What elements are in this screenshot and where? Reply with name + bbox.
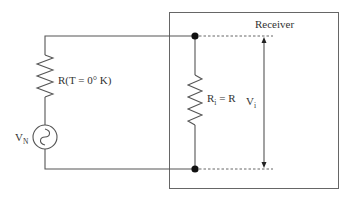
circuit-diagram: Receiver R(T = 0° K) VN Ri = R Vi — [0, 0, 352, 199]
arrow-up-icon — [262, 37, 267, 43]
noise-source-label: VN — [15, 131, 29, 146]
source-resistor-label: R(T = 0° K) — [58, 74, 112, 87]
bottom-wire — [45, 149, 195, 169]
input-voltage-label: Vi — [246, 95, 256, 110]
input-resistor-label: Ri = R — [207, 92, 236, 107]
receiver-label: Receiver — [255, 18, 294, 30]
sine-wave-icon — [40, 129, 49, 145]
input-resistor-icon — [188, 75, 202, 125]
junction-dot-bottom — [191, 165, 198, 172]
top-wire — [45, 36, 195, 55]
junction-dot-top — [191, 32, 198, 39]
arrow-down-icon — [262, 162, 267, 168]
source-resistor-icon — [37, 55, 53, 97]
